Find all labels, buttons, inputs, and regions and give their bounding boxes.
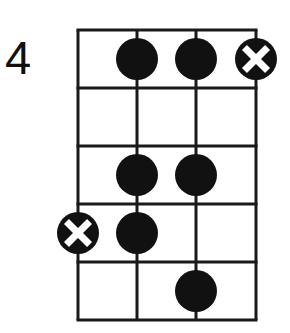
fretboard-diagram (0, 0, 290, 333)
fretboard-grid (77, 30, 258, 320)
root-x-marker-icon (57, 212, 99, 254)
finger-dot (116, 212, 158, 254)
finger-dot (116, 154, 158, 196)
finger-dot (175, 154, 217, 196)
finger-dot (116, 38, 158, 80)
finger-dot (175, 270, 217, 312)
finger-dot (175, 38, 217, 80)
root-x-marker-icon (235, 38, 277, 80)
finger-markers (57, 38, 277, 312)
